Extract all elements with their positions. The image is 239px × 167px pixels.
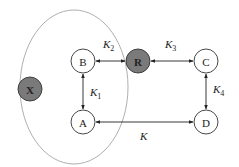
edge-label-r-c: K3: [164, 38, 176, 53]
edge-label-b-r: K2: [102, 38, 114, 53]
node-label-a: A: [79, 117, 87, 129]
node-x: X: [18, 77, 42, 101]
reaction-diagram: XBRCAD K2K3K1K4K: [0, 0, 239, 167]
node-d: D: [194, 110, 218, 134]
node-label-b: B: [79, 56, 86, 68]
edge-label-c-d: K4: [212, 83, 224, 98]
edge-label-b-a: K1: [89, 86, 101, 101]
node-label-c: C: [202, 56, 209, 68]
edge-label-a-d: K: [139, 130, 148, 142]
node-b: B: [71, 49, 95, 73]
node-label-d: D: [202, 117, 210, 129]
node-label-x: X: [26, 84, 34, 96]
node-a: A: [71, 110, 95, 134]
node-c: C: [194, 49, 218, 73]
node-r: R: [126, 49, 150, 73]
node-label-r: R: [134, 56, 143, 68]
nodes-group: XBRCAD: [18, 49, 218, 134]
